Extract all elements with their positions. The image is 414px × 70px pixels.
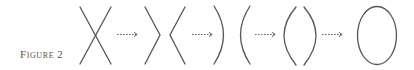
left-lens-arc: [284, 7, 296, 65]
right-lens-arc: [304, 7, 316, 65]
ellipse: [358, 7, 397, 65]
stage-closed-ellipse: [358, 7, 397, 65]
stage-crossing: [80, 7, 111, 64]
right-bulging-arc: [214, 6, 224, 64]
right-wedge: [145, 7, 160, 64]
left-wedge: [170, 7, 185, 64]
stage-outward-arcs: [214, 6, 250, 64]
stage-inward-arcs: [284, 7, 316, 65]
left-bulging-arc: [241, 6, 251, 64]
deformation-diagram: [0, 0, 414, 70]
stage-separated-wedges: [145, 7, 185, 64]
